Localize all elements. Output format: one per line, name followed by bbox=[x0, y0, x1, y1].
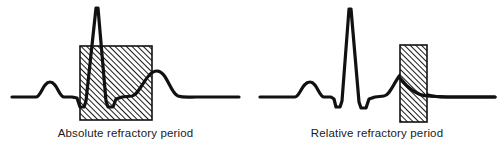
caption-relative-refractory: Relative refractory period bbox=[251, 127, 503, 139]
caption-absolute-refractory: Absolute refractory period bbox=[0, 127, 251, 139]
panel-relative-refractory: Relative refractory period bbox=[251, 0, 503, 162]
refractory-period-diagram: Absolute refractory period Relative refr… bbox=[0, 0, 503, 162]
panel-absolute-refractory: Absolute refractory period bbox=[0, 0, 251, 162]
